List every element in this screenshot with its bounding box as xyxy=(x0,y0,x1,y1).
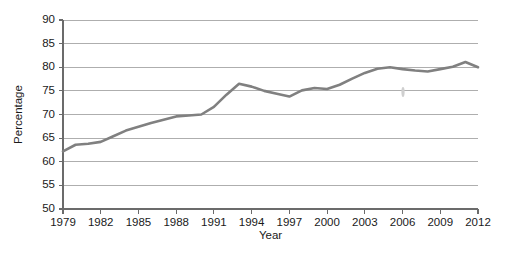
x-tick-label-2006: 2006 xyxy=(390,216,416,228)
x-tick-label-1991: 1991 xyxy=(201,216,227,228)
y-tick-label-90: 90 xyxy=(42,13,55,25)
y-tick-label-55: 55 xyxy=(42,178,55,190)
x-tick-label-1979: 1979 xyxy=(50,216,76,228)
line-chart-figure: 505560657075808590 197919821985198819911… xyxy=(0,0,517,256)
x-tick-label-2009: 2009 xyxy=(427,216,453,228)
x-tick-label-2012: 2012 xyxy=(465,216,491,228)
x-axis-tick-labels: 1979198219851988199119941997200020032006… xyxy=(50,216,491,228)
y-tick-label-65: 65 xyxy=(42,131,55,143)
scan-artifact-speck xyxy=(401,87,404,97)
x-tick-label-1988: 1988 xyxy=(163,216,189,228)
x-axis-tick-marks xyxy=(63,209,478,214)
x-tick-label-2003: 2003 xyxy=(352,216,378,228)
y-tick-label-60: 60 xyxy=(42,155,55,167)
y-axis-tick-labels: 505560657075808590 xyxy=(42,13,55,214)
y-tick-label-70: 70 xyxy=(42,108,55,120)
y-axis-title: Percentage xyxy=(12,85,24,144)
y-tick-label-50: 50 xyxy=(42,202,55,214)
x-tick-label-1982: 1982 xyxy=(88,216,114,228)
chart-svg: 505560657075808590 197919821985198819911… xyxy=(0,0,517,256)
x-axis-title: Year xyxy=(259,229,282,241)
y-tick-label-80: 80 xyxy=(42,60,55,72)
y-tick-label-75: 75 xyxy=(42,84,55,96)
gridlines xyxy=(59,20,478,209)
x-tick-label-2000: 2000 xyxy=(314,216,340,228)
x-tick-label-1985: 1985 xyxy=(126,216,152,228)
x-tick-label-1994: 1994 xyxy=(239,216,265,228)
y-tick-label-85: 85 xyxy=(42,37,55,49)
x-tick-label-1997: 1997 xyxy=(277,216,303,228)
